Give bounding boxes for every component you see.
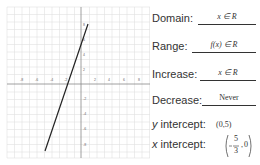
x-intercept-denominator: 3 xyxy=(234,146,238,155)
x-intercept-value: 5 3 , 0 xyxy=(224,134,254,160)
domain-row: Domain: xyxy=(152,12,193,24)
decrease-label: Decrease: xyxy=(152,94,202,106)
range-value: f(x) ∈ R xyxy=(192,40,256,53)
domain-value: x ∈ R xyxy=(198,12,256,25)
y-intercept-row: y intercept: xyxy=(152,118,206,130)
svg-text:8: 8 xyxy=(138,78,140,82)
svg-text:-2: -2 xyxy=(83,97,86,101)
svg-text:-4: -4 xyxy=(83,112,86,116)
svg-text:-8: -8 xyxy=(20,78,23,82)
svg-text:-8: -8 xyxy=(83,143,86,147)
x-intercept-y: 0 xyxy=(244,140,248,149)
svg-text:4: 4 xyxy=(108,78,110,82)
x-intercept-row: x intercept: xyxy=(152,138,206,150)
increase-row: Increase: xyxy=(152,68,197,80)
svg-text:2: 2 xyxy=(83,68,85,72)
svg-text:2: 2 xyxy=(94,78,96,82)
y-intercept-label: intercept: xyxy=(158,118,206,130)
range-row: Range: xyxy=(152,40,187,52)
range-label: Range: xyxy=(152,40,187,52)
decrease-value: Never xyxy=(202,93,256,106)
svg-text:6: 6 xyxy=(123,78,125,82)
x-intercept-numerator: 5 xyxy=(234,134,238,143)
x-intercept-label: intercept: xyxy=(158,138,206,150)
tick-labels: -8-6-4-2 2468 8642 -2-4-6-8 xyxy=(20,23,140,147)
domain-label: Domain: xyxy=(152,12,193,24)
svg-text:8: 8 xyxy=(83,23,85,27)
y-intercept-value: (0,5) xyxy=(216,120,231,129)
svg-text:-6: -6 xyxy=(83,127,86,131)
increase-value: x ∈ R xyxy=(200,68,256,81)
svg-text:-6: -6 xyxy=(35,78,38,82)
decrease-row: Decrease: xyxy=(152,94,202,106)
svg-text:-2: -2 xyxy=(64,78,67,82)
svg-text:-4: -4 xyxy=(50,78,53,82)
grid xyxy=(7,7,150,158)
svg-text:4: 4 xyxy=(83,53,85,57)
function-line xyxy=(45,24,88,151)
coordinate-graph: -8-6-4-2 2468 8642 -2-4-6-8 xyxy=(0,0,150,165)
increase-label: Increase: xyxy=(152,68,197,80)
